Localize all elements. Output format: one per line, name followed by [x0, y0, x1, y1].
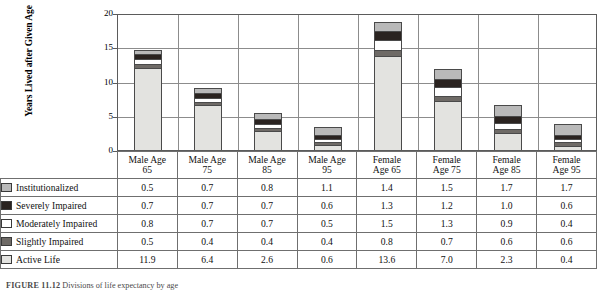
bar-segment	[375, 57, 401, 150]
legend-swatch-icon	[1, 219, 12, 228]
table-value-cell: 11.9	[117, 251, 177, 269]
bar-slot	[538, 13, 598, 150]
table-value-cell: 0.7	[177, 215, 237, 233]
column-header-line: 95	[298, 165, 357, 175]
table-value-cell: 0.4	[537, 215, 597, 233]
table-corner-cell	[1, 152, 118, 179]
legend-label: Moderately Impaired	[16, 218, 97, 229]
table-value-cell: 0.6	[297, 197, 357, 215]
y-tick-label-5: 5	[89, 111, 113, 121]
table-value-cell: 0.4	[297, 233, 357, 251]
bar-slot	[418, 13, 478, 150]
column-header-line: 85	[238, 165, 297, 175]
bar-slot	[358, 13, 418, 150]
table-value-cell: 1.0	[477, 197, 537, 215]
column-header-line: Age 65	[357, 165, 416, 175]
column-header-male-age-65: Male Age65	[117, 152, 177, 179]
table-value-cell: 1.5	[357, 215, 417, 233]
table-value-cell: 1.7	[537, 179, 597, 197]
column-header-female-age-85: FemaleAge 85	[477, 152, 537, 179]
legend-swatch-icon	[1, 201, 12, 210]
bar-segment	[495, 134, 521, 150]
table-value-cell: 0.5	[117, 179, 177, 197]
table-value-cell: 0.7	[237, 197, 297, 215]
bar-segment	[435, 102, 461, 150]
bar-segment	[315, 146, 341, 150]
column-header-male-age-85: Male Age85	[237, 152, 297, 179]
table-row: Active Life11.96.42.60.613.67.02.30.4	[1, 251, 597, 269]
bar-segment	[495, 106, 521, 118]
column-header-male-age-95: Male Age95	[297, 152, 357, 179]
legend-cell-severely-impaired: Severely Impaired	[1, 197, 118, 215]
table-row: Slightly Impaired0.50.40.40.40.80.70.60.…	[1, 233, 597, 251]
bar-slot	[298, 13, 358, 150]
table-value-cell: 13.6	[357, 251, 417, 269]
table-value-cell: 0.5	[117, 233, 177, 251]
table-value-cell: 0.6	[297, 251, 357, 269]
bar-slot	[478, 13, 538, 150]
bar-segment	[375, 32, 401, 41]
caption-text: Divisions of life expectancy by age	[62, 281, 178, 290]
figure-caption: FIGURE 11.12 Divisions of life expectanc…	[6, 281, 606, 292]
table-row: Severely Impaired0.70.70.70.61.31.21.00.…	[1, 197, 597, 215]
table-value-cell: 0.7	[117, 197, 177, 215]
legend-swatch-icon	[1, 237, 12, 246]
table-value-cell: 2.6	[237, 251, 297, 269]
table-value-cell: 0.6	[537, 233, 597, 251]
bar-segment	[435, 80, 461, 88]
figure-container: Years Lived after Given Age 05101520 Mal…	[0, 0, 609, 292]
chart-region: Years Lived after Given Age 05101520	[0, 0, 609, 152]
legend-label: Institutionalized	[16, 182, 78, 193]
column-header-line: Age 75	[417, 165, 476, 175]
table-value-cell: 0.6	[537, 197, 597, 215]
bar-slot	[178, 13, 238, 150]
legend-cell-active-life: Active Life	[1, 251, 118, 269]
data-table: Male Age65Male Age75Male Age85Male Age95…	[0, 151, 597, 269]
bar-segment	[375, 41, 401, 51]
table-value-cell: 1.7	[477, 179, 537, 197]
table-row: Moderately Impaired0.80.70.70.51.51.30.9…	[1, 215, 597, 233]
bar-segment	[555, 147, 581, 150]
table-value-cell: 1.1	[297, 179, 357, 197]
column-header-female-age-95: FemaleAge 95	[537, 152, 597, 179]
legend-cell-institutionalized: Institutionalized	[1, 179, 118, 197]
column-header-line: 65	[118, 165, 177, 175]
table-row: Institutionalized0.50.70.81.11.41.51.71.…	[1, 179, 597, 197]
bar-segment	[375, 23, 401, 33]
table-value-cell: 0.6	[477, 233, 537, 251]
data-table-region: Male Age65Male Age75Male Age85Male Age95…	[0, 151, 609, 269]
column-header-female-age-75: FemaleAge 75	[417, 152, 477, 179]
column-header-male-age-75: Male Age75	[177, 152, 237, 179]
table-value-cell: 1.2	[417, 197, 477, 215]
legend-label: Active Life	[16, 254, 60, 265]
legend-label: Severely Impaired	[16, 200, 87, 211]
bar-segment	[255, 132, 281, 150]
bar-slot	[118, 13, 178, 150]
bar-segment	[435, 88, 461, 97]
stacked-bar	[374, 22, 402, 150]
table-value-cell: 0.8	[237, 179, 297, 197]
column-header-line: Age 95	[537, 165, 596, 175]
stacked-bar	[314, 127, 342, 150]
table-value-cell: 0.7	[237, 215, 297, 233]
plot-area	[117, 14, 597, 151]
legend-swatch-icon	[1, 183, 12, 192]
table-value-cell: 7.0	[417, 251, 477, 269]
table-value-cell: 0.8	[357, 233, 417, 251]
y-axis-title: Years Lived after Given Age	[24, 0, 34, 136]
table-value-cell: 1.4	[357, 179, 417, 197]
stacked-bar	[194, 88, 222, 150]
table-value-cell: 1.5	[417, 179, 477, 197]
legend-cell-slightly-impaired: Slightly Impaired	[1, 233, 118, 251]
bar-slot	[238, 13, 298, 150]
table-value-cell: 0.4	[237, 233, 297, 251]
table-value-cell: 1.3	[357, 197, 417, 215]
table-value-cell: 0.7	[177, 179, 237, 197]
stacked-bar	[134, 50, 162, 150]
table-value-cell: 0.8	[117, 215, 177, 233]
bar-segment	[135, 69, 161, 151]
table-value-cell: 0.4	[177, 233, 237, 251]
table-value-cell: 0.7	[417, 233, 477, 251]
table-value-cell: 0.4	[537, 251, 597, 269]
stacked-bar	[254, 113, 282, 150]
